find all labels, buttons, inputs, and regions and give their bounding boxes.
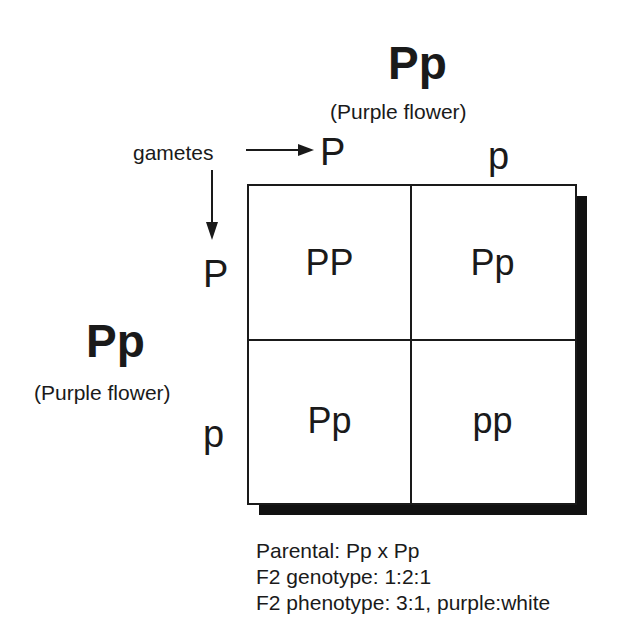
top-parent-genotype: Pp bbox=[388, 40, 447, 86]
down-arrow-icon bbox=[202, 168, 222, 242]
note-parental: Parental: Pp x Pp bbox=[256, 538, 550, 564]
left-gamete-1: P bbox=[203, 255, 228, 293]
cell-PP: PP bbox=[249, 186, 410, 339]
top-gamete-2: p bbox=[488, 137, 509, 175]
cell-text: Pp bbox=[307, 403, 351, 439]
left-gamete-2: p bbox=[203, 415, 224, 453]
note-genotype: F2 genotype: 1:2:1 bbox=[256, 564, 550, 590]
cell-pp: pp bbox=[412, 341, 573, 501]
right-arrow-icon bbox=[244, 140, 316, 160]
note-phenotype: F2 phenotype: 3:1, purple:white bbox=[256, 590, 550, 616]
left-parent-phenotype: (Purple flower) bbox=[34, 382, 171, 403]
cell-Pp-top-right: Pp bbox=[412, 186, 573, 339]
cell-text: pp bbox=[472, 403, 512, 439]
top-gamete-1: P bbox=[320, 133, 345, 171]
left-parent-genotype: Pp bbox=[86, 318, 145, 364]
cell-text: PP bbox=[305, 245, 353, 281]
top-parent-phenotype: (Purple flower) bbox=[330, 101, 467, 122]
notes: Parental: Pp x Pp F2 genotype: 1:2:1 F2 … bbox=[256, 538, 550, 616]
cell-Pp-bottom-left: Pp bbox=[249, 341, 410, 501]
cell-text: Pp bbox=[470, 245, 514, 281]
gametes-label: gametes bbox=[133, 142, 214, 163]
